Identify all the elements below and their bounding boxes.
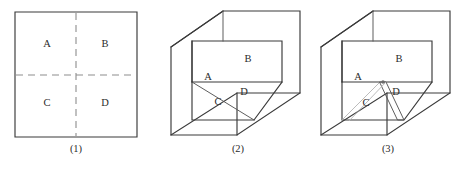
figure-1-label-a: A bbox=[43, 38, 51, 49]
figure-3-label-d: D bbox=[392, 86, 400, 97]
figure-3-outer-box-floor-edge bbox=[321, 93, 450, 135]
figure-3-outer-box-silhouette bbox=[321, 11, 450, 135]
figure-3-outer-box-top-left-edge bbox=[321, 11, 373, 47]
figure-1-caption: (1) bbox=[70, 143, 83, 155]
figure-1-label-d: D bbox=[101, 97, 109, 108]
figure-1-label-c: C bbox=[43, 97, 50, 108]
figure-3-caption: (3) bbox=[382, 143, 395, 155]
figure-panel: A B C D (1) A B C D (2) bbox=[0, 0, 468, 169]
figure-2-caption: (2) bbox=[232, 143, 245, 155]
figure-2-outer-box-top-left-edge bbox=[171, 11, 223, 47]
figure-3-label-c: C bbox=[362, 97, 369, 108]
figure-2-outer-box-floor-edge bbox=[171, 93, 300, 135]
figure-3-slit-apex-vertex bbox=[381, 80, 384, 83]
figure-3-label-b: B bbox=[395, 53, 402, 64]
figure-2-group: A B C D (2) bbox=[171, 11, 300, 155]
diagram-canvas: A B C D (1) A B C D (2) bbox=[0, 0, 468, 169]
figure-2-outer-box-silhouette bbox=[171, 11, 300, 135]
figure-2-label-c: C bbox=[214, 96, 221, 107]
figure-2-label-b: B bbox=[244, 53, 251, 64]
figure-2-label-d: D bbox=[240, 86, 248, 97]
figure-2-label-a: A bbox=[204, 71, 212, 82]
figure-1-label-b: B bbox=[101, 38, 108, 49]
figure-3-group: A B C D (3) bbox=[321, 11, 450, 155]
figure-1-group: A B C D (1) bbox=[15, 12, 137, 155]
figure-3-label-a: A bbox=[354, 71, 362, 82]
